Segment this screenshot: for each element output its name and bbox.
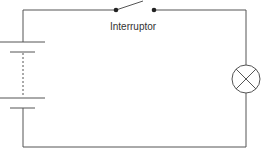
switch-arm <box>116 1 143 10</box>
switch-terminal-left <box>114 8 119 13</box>
wire-top-left <box>23 10 116 42</box>
switch-label: Interruptor <box>110 21 156 32</box>
switch-terminal-right <box>152 8 157 13</box>
wire-bottom <box>23 93 246 147</box>
wire-top-right <box>154 10 246 65</box>
